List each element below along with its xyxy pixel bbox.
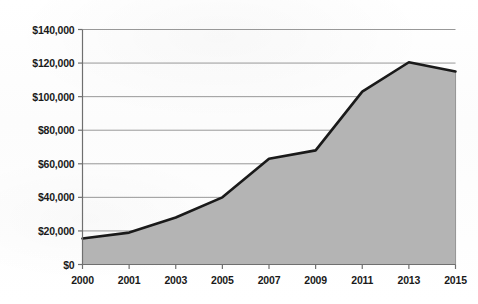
x-axis-tick-label: 2001: [118, 274, 141, 286]
x-axis-tick-marks: [83, 265, 456, 270]
area-chart: $0$20,000$40,000$60,000$80,000$100,000$1…: [0, 0, 478, 304]
y-axis-tick-label: $120,000: [32, 57, 74, 69]
x-axis-tick-label: 2005: [211, 274, 234, 286]
y-axis-tick-label: $40,000: [38, 191, 75, 203]
y-axis-tick-label: $100,000: [32, 91, 74, 103]
y-axis-tick-label: $60,000: [38, 158, 75, 170]
x-axis-tick-label: 2009: [304, 274, 327, 286]
y-axis-tick-label: $140,000: [32, 24, 74, 36]
y-axis-tick-label: $0: [63, 259, 74, 271]
y-axis-tick-label: $20,000: [38, 225, 75, 237]
x-axis-tick-label: 2000: [71, 274, 94, 286]
x-axis-tick-label: 2015: [444, 274, 467, 286]
x-axis-tick-label: 2007: [258, 274, 281, 286]
x-axis-tick-label: 2011: [351, 274, 373, 286]
x-axis-tick-label: 2003: [164, 274, 187, 286]
y-axis-tick-label: $80,000: [38, 124, 75, 136]
y-axis-tick-marks: [78, 30, 83, 265]
x-axis-tick-label: 2013: [398, 274, 421, 286]
